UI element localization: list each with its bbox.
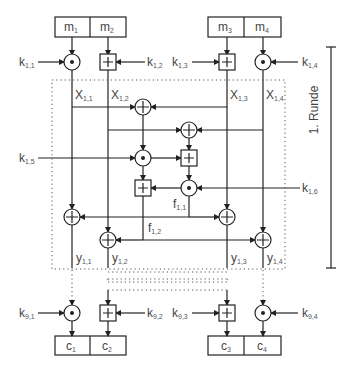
label-m4: m4: [255, 20, 269, 34]
label-k14: k1,4: [302, 55, 318, 69]
elided-rounds: [108, 272, 227, 290]
label-c1: c1: [66, 339, 76, 353]
label-k94: k9,4: [302, 306, 318, 320]
label-k11: k1,1: [19, 55, 35, 69]
label-x14: X1,4: [266, 88, 284, 102]
label-m1: m1: [64, 20, 78, 34]
label-y13: y1,3: [231, 251, 247, 265]
label-k16: k1,6: [302, 181, 318, 195]
label-k91: k9,1: [19, 306, 35, 320]
label-x11: X1,1: [75, 88, 93, 102]
label-k13: k1,3: [172, 55, 188, 69]
round-label: 1. Runde: [307, 85, 321, 134]
round-boundary: [52, 80, 285, 269]
label-m2: m2: [100, 20, 114, 34]
label-c3: c3: [221, 339, 231, 353]
label-x12: X1,2: [111, 88, 129, 102]
label-k12: k1,2: [147, 55, 163, 69]
label-k93: k9,3: [172, 306, 188, 320]
label-y11: y1,1: [76, 251, 92, 265]
label-k92: k9,2: [147, 306, 163, 320]
idea-round-diagram: m1 m2 m3 m4 k1,1 k1,2 k1,3 k1,4 k1,5 k1,…: [0, 0, 351, 377]
label-f12: f1,2: [148, 221, 161, 235]
label-y14: y1,4: [267, 251, 283, 265]
label-k15: k1,5: [19, 151, 35, 165]
label-x13: X1,3: [230, 88, 248, 102]
label-y12: y1,2: [112, 251, 128, 265]
label-f11: f1,1: [173, 197, 186, 211]
label-m3: m3: [218, 20, 232, 34]
label-c2: c2: [102, 339, 112, 353]
label-c4: c4: [257, 339, 267, 353]
